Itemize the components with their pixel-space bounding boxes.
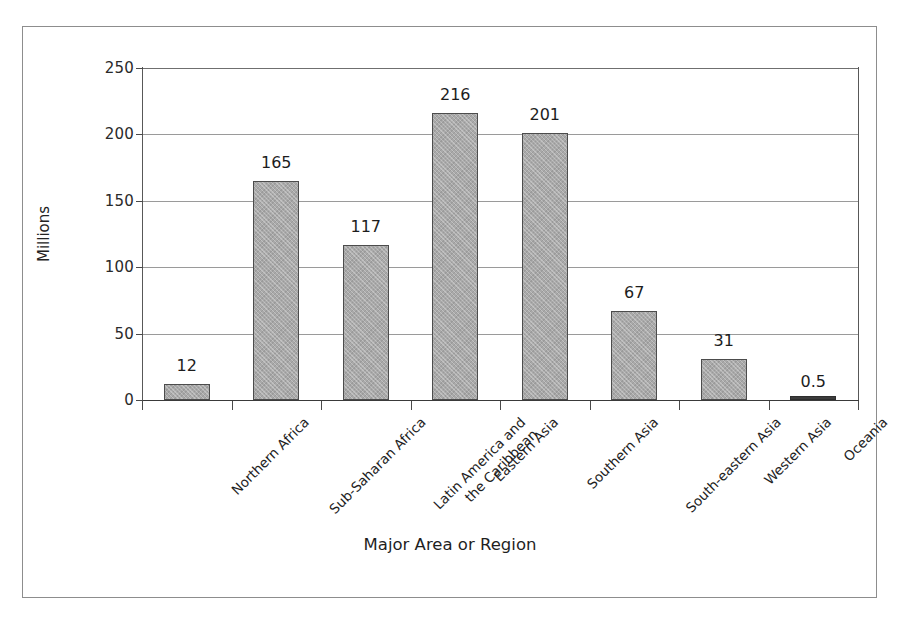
x-category-label-oceania: Oceania xyxy=(840,414,891,465)
y-tick-label-0: 0 xyxy=(90,391,134,409)
bar-value-sub-saharan-africa: 165 xyxy=(261,153,292,172)
bar-value-latin-america-caribbean: 117 xyxy=(350,217,381,236)
bar-value-oceania: 0.5 xyxy=(801,372,826,391)
x-tick-mark-0 xyxy=(142,401,143,410)
bar-value-south-eastern-asia: 67 xyxy=(624,283,644,302)
x-tick-mark-7 xyxy=(769,401,770,410)
bar-eastern-asia[interactable] xyxy=(432,113,478,400)
bar-northern-africa[interactable] xyxy=(164,384,210,400)
y-tick-label-50: 50 xyxy=(90,325,134,343)
bar-value-southern-asia: 201 xyxy=(529,105,560,124)
plot-right-border xyxy=(858,67,859,401)
chart-page: 250 200 150 100 50 0 Millions xyxy=(0,0,900,620)
x-tick-mark-4 xyxy=(500,401,501,410)
x-category-label-south-eastern-asia: South-eastern Asia xyxy=(682,414,784,516)
bar-chart: 250 200 150 100 50 0 Millions xyxy=(0,0,900,620)
x-tick-mark-6 xyxy=(679,401,680,410)
x-category-label-northern-africa: Northern Africa xyxy=(228,414,313,499)
bar-southern-asia[interactable] xyxy=(522,133,568,400)
bar-value-northern-africa: 12 xyxy=(177,356,197,375)
x-tick-mark-5 xyxy=(590,401,591,410)
x-category-label-latin-america-caribbean: Latin America and the Caribbean xyxy=(418,414,541,537)
bar-south-eastern-asia[interactable] xyxy=(611,311,657,400)
y-axis-title: Millions xyxy=(35,206,53,262)
bar-value-western-asia: 31 xyxy=(714,331,734,350)
bar-western-asia[interactable] xyxy=(701,359,747,400)
bar-oceania[interactable] xyxy=(790,396,836,400)
x-category-label-sub-saharan-africa: Sub-Saharan Africa xyxy=(326,414,429,517)
bar-sub-saharan-africa[interactable] xyxy=(253,181,299,400)
y-tick-label-150: 150 xyxy=(90,192,134,210)
x-tick-mark-3 xyxy=(411,401,412,410)
bar-value-eastern-asia: 216 xyxy=(440,85,471,104)
x-axis-title: Major Area or Region xyxy=(364,535,537,554)
x-tick-mark-1 xyxy=(232,401,233,410)
y-tick-label-100: 100 xyxy=(90,258,134,276)
y-tick-label-200: 200 xyxy=(90,125,134,143)
y-axis-tick-labels: 250 200 150 100 50 0 xyxy=(78,0,134,620)
x-tick-mark-2 xyxy=(321,401,322,410)
x-category-label-southern-asia: Southern Asia xyxy=(584,414,662,492)
x-tick-mark-8 xyxy=(858,401,859,410)
y-tick-label-250: 250 xyxy=(90,59,134,77)
bar-latin-america-caribbean[interactable] xyxy=(343,245,389,400)
plot-area xyxy=(142,68,858,400)
